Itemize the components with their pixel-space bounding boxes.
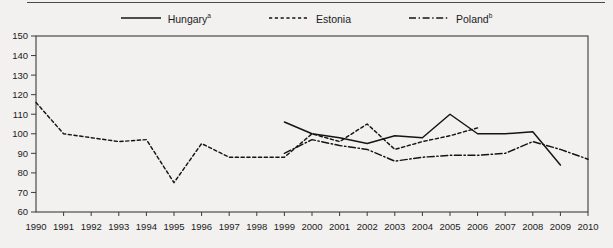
y-tick-label: 70 bbox=[17, 187, 28, 198]
data-series-group bbox=[36, 102, 588, 182]
line-chart-svg: 60708090100110120130140150 1990199119921… bbox=[0, 0, 613, 248]
x-tick-label: 1994 bbox=[136, 221, 157, 232]
x-tick-label: 2002 bbox=[357, 221, 378, 232]
x-tick-label: 2001 bbox=[329, 221, 350, 232]
series-line-estonia bbox=[36, 102, 478, 182]
x-tick-label: 1997 bbox=[219, 221, 240, 232]
x-tick-label: 2003 bbox=[384, 221, 405, 232]
chart-container: Hungarya Estonia Polandb 607080901001101… bbox=[0, 0, 613, 248]
x-axis: 1990199119921993199419951996199719981999… bbox=[25, 212, 598, 232]
series-line-hungary bbox=[284, 114, 560, 165]
x-tick-label: 2010 bbox=[577, 221, 598, 232]
y-tick-label: 130 bbox=[12, 70, 28, 81]
y-tick-label: 90 bbox=[17, 148, 28, 159]
y-tick-label: 80 bbox=[17, 167, 28, 178]
x-tick-label: 1995 bbox=[163, 221, 184, 232]
y-tick-label: 150 bbox=[12, 30, 28, 41]
x-tick-label: 1998 bbox=[246, 221, 267, 232]
y-tick-label: 140 bbox=[12, 50, 28, 61]
x-tick-label: 1990 bbox=[25, 221, 46, 232]
y-tick-label: 100 bbox=[12, 128, 28, 139]
x-tick-label: 2000 bbox=[301, 221, 322, 232]
x-tick-label: 2008 bbox=[522, 221, 543, 232]
y-tick-label: 120 bbox=[12, 89, 28, 100]
x-tick-label: 1996 bbox=[191, 221, 212, 232]
x-tick-label: 1991 bbox=[53, 221, 74, 232]
x-tick-label: 1999 bbox=[274, 221, 295, 232]
x-tick-label: 1993 bbox=[108, 221, 129, 232]
x-tick-label: 2004 bbox=[412, 221, 433, 232]
x-tick-label: 2007 bbox=[495, 221, 516, 232]
y-axis: 60708090100110120130140150 bbox=[12, 30, 36, 217]
y-tick-label: 60 bbox=[17, 206, 28, 217]
x-tick-label: 1992 bbox=[81, 221, 102, 232]
x-tick-label: 2009 bbox=[550, 221, 571, 232]
plot-frame bbox=[36, 36, 588, 212]
x-tick-label: 2005 bbox=[439, 221, 460, 232]
x-tick-label: 2006 bbox=[467, 221, 488, 232]
plot-area-wrapper: 60708090100110120130140150 1990199119921… bbox=[0, 0, 613, 248]
y-tick-label: 110 bbox=[13, 109, 28, 120]
